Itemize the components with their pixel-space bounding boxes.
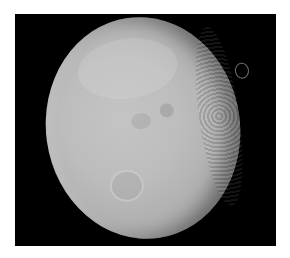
photo-frame bbox=[15, 14, 276, 246]
cratered-limb bbox=[187, 24, 252, 208]
moon-body bbox=[31, 14, 254, 246]
bright-region bbox=[74, 32, 181, 105]
crater bbox=[159, 103, 175, 119]
crater bbox=[130, 112, 152, 131]
large-crater bbox=[108, 168, 146, 204]
crater bbox=[234, 62, 250, 80]
